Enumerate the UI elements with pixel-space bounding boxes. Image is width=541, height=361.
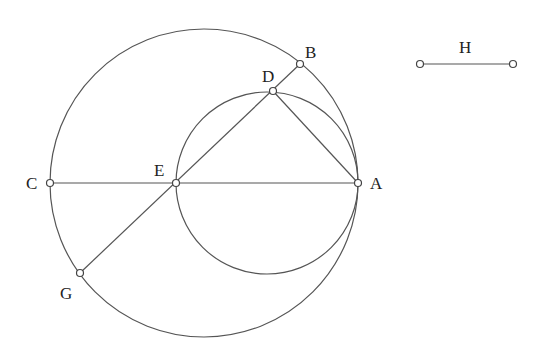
- geometry-diagram: A B C D E G H: [0, 0, 541, 361]
- point-G: [77, 270, 84, 277]
- point-B: [297, 61, 304, 68]
- point-H-end: [510, 61, 517, 68]
- label-B: B: [305, 43, 316, 62]
- segment-GB: [80, 64, 300, 273]
- label-D: D: [262, 67, 274, 86]
- point-A: [355, 180, 362, 187]
- point-C: [47, 180, 54, 187]
- label-C: C: [26, 174, 37, 193]
- point-D: [270, 88, 277, 95]
- label-E: E: [154, 161, 164, 180]
- point-E: [173, 180, 180, 187]
- label-G: G: [60, 284, 72, 303]
- label-H: H: [459, 38, 471, 57]
- point-H-start: [417, 61, 424, 68]
- label-A: A: [370, 174, 383, 193]
